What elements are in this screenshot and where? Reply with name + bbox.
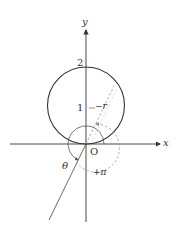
dashed-ray-offset xyxy=(90,88,117,146)
theta-ray xyxy=(49,144,86,220)
tick-label-1: 1 xyxy=(77,103,83,113)
plus-pi-label: +π xyxy=(93,168,106,177)
theta-label: θ xyxy=(62,161,68,171)
x-axis-label: x xyxy=(163,138,169,148)
polar-diagram xyxy=(0,0,180,235)
tick-label-2: 2 xyxy=(77,58,83,68)
y-axis-label: y xyxy=(82,17,88,27)
minus-r-label: −r xyxy=(95,102,107,111)
origin-label: O xyxy=(90,147,98,157)
